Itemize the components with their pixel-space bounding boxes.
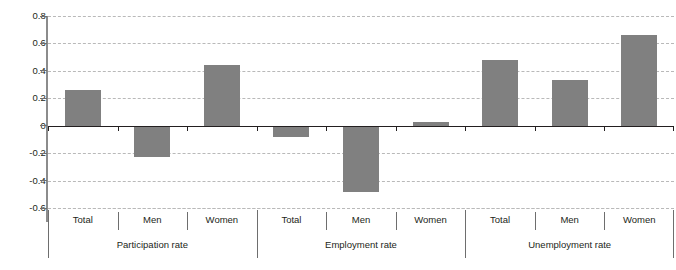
bar: [134, 126, 170, 158]
x-category-label: Total: [48, 214, 118, 226]
x-axis-labels: TotalMenWomenParticipation rateTotalMenW…: [48, 208, 674, 270]
bar: [65, 90, 101, 126]
zero-line: [48, 126, 674, 127]
bar-chart: 0.80.60.40.20-0.2-0.4-0.6 TotalMenWomenP…: [0, 0, 676, 270]
axis-tick: [396, 126, 397, 131]
axis-tick: [187, 126, 188, 131]
bar: [621, 35, 657, 126]
axis-tick: [326, 126, 327, 131]
y-tick-mark: [40, 125, 47, 126]
gridline: [48, 16, 674, 17]
x-category-label: Women: [604, 214, 674, 226]
y-tick-mark: [40, 70, 47, 71]
bar: [343, 126, 379, 192]
group-separator: [48, 210, 49, 258]
x-category-label: Men: [118, 214, 188, 226]
group-separator: [257, 210, 258, 258]
y-tick-mark: [40, 180, 47, 181]
y-tick-mark: [40, 16, 47, 17]
gridline: [48, 71, 674, 72]
x-category-label: Men: [326, 214, 396, 226]
plot-area: [48, 16, 674, 208]
y-tick-mark: [40, 43, 47, 44]
x-category-label: Women: [396, 214, 466, 226]
axis-tick: [257, 126, 258, 131]
bar: [273, 126, 309, 137]
x-group-label: Unemployment rate: [465, 239, 674, 251]
axis-tick: [48, 126, 49, 131]
x-category-label: Men: [535, 214, 605, 226]
bar: [482, 60, 518, 126]
group-separator: [673, 210, 674, 258]
y-tick-mark: [40, 208, 47, 209]
x-group-label: Participation rate: [48, 239, 257, 251]
axis-tick: [673, 126, 674, 131]
gridline: [48, 43, 674, 44]
axis-tick: [118, 126, 119, 131]
bar: [552, 80, 588, 125]
group-separator: [465, 210, 466, 258]
bar: [204, 65, 240, 125]
y-tick-mark: [40, 153, 47, 154]
axis-tick: [604, 126, 605, 131]
x-axis-top-rule: [48, 208, 674, 209]
x-group-label: Employment rate: [257, 239, 466, 251]
x-category-label: Total: [257, 214, 327, 226]
y-tick-mark: [40, 98, 47, 99]
axis-tick: [535, 126, 536, 131]
x-category-label: Total: [465, 214, 535, 226]
axis-tick: [465, 126, 466, 131]
x-category-label: Women: [187, 214, 257, 226]
